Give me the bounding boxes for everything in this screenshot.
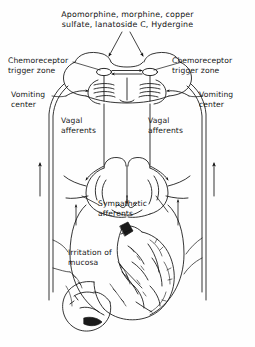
- vagus-nerve-trunk-right: [187, 84, 206, 300]
- ctz-interconnect: [112, 71, 142, 75]
- drug-list-line-1: Apomorphine, morphine, copper: [0, 10, 255, 20]
- label-vagal-afferents-right: Vagal afferents: [148, 116, 183, 135]
- duodenum: [63, 282, 111, 332]
- drug-list-line-2: sulfate, lanatoside C, Hydergine: [0, 20, 255, 30]
- label-vomiting-center-right: Vomiting center: [199, 90, 233, 109]
- label-irritation-of-mucosa: Irritation of mucosa: [68, 248, 112, 267]
- drug-arrow-left: [109, 32, 122, 56]
- stomach: [94, 222, 174, 320]
- leader-irritation: [120, 265, 142, 288]
- trunk-to-viscera-right: [184, 238, 202, 274]
- emetic-pathways-figure: Apomorphine, morphine, copper sulfate, l…: [0, 0, 255, 347]
- label-chemoreceptor-trigger-zone-right: Chemoreceptor trigger zone: [172, 56, 232, 75]
- drug-arrow-right: [130, 32, 143, 56]
- label-chemoreceptor-trigger-zone-left: Chemoreceptor trigger zone: [8, 56, 68, 75]
- vomiting-center-node-left: [66, 91, 88, 96]
- gastric-nerve-plexus: [110, 239, 172, 312]
- label-vagal-afferents-left: Vagal afferents: [61, 116, 96, 135]
- label-vomiting-center-left: Vomiting center: [11, 90, 45, 109]
- vomiting-center-node-right: [167, 91, 189, 96]
- label-sympathetic-afferents: Sympathetic afferents: [98, 199, 147, 218]
- leader-ctz-left: [73, 62, 100, 70]
- drug-list-title: Apomorphine, morphine, copper sulfate, l…: [0, 10, 255, 31]
- anatomical-line-art: [0, 0, 255, 347]
